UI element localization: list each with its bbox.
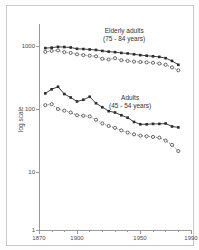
annotation-elderly-line2: (75 - 84 years)	[103, 35, 145, 43]
data-point	[88, 54, 91, 57]
data-point	[88, 95, 91, 98]
annotation-elderly-adults: Elderly adults (75 - 84 years)	[103, 27, 145, 43]
data-point	[158, 136, 161, 139]
figure-frame: log scale 1000 100 10 1	[6, 5, 194, 246]
data-point	[82, 54, 85, 57]
annotation-elderly-line1: Elderly adults	[103, 27, 145, 35]
data-point	[69, 46, 72, 49]
annotation-adults-line1: Adults	[109, 94, 151, 102]
data-point	[158, 123, 161, 126]
data-point	[139, 54, 142, 57]
data-point	[63, 109, 66, 112]
data-point	[95, 102, 98, 105]
data-point	[126, 59, 129, 62]
data-point	[101, 122, 104, 125]
data-point	[44, 50, 47, 53]
data-point	[50, 46, 53, 49]
data-point	[63, 93, 66, 96]
y-tick-label-10: 10	[28, 169, 35, 175]
data-point	[57, 46, 60, 49]
data-point	[139, 60, 142, 63]
data-point	[145, 61, 148, 64]
data-point	[120, 59, 123, 62]
data-point	[94, 55, 97, 58]
data-point	[101, 57, 104, 60]
data-point	[133, 53, 136, 56]
x-tick-label-1870: 1870	[32, 235, 45, 241]
data-point	[139, 123, 142, 126]
series-canvas	[39, 24, 191, 231]
x-tick-label-1950: 1950	[133, 235, 146, 241]
data-point	[120, 114, 123, 117]
data-point	[107, 110, 110, 113]
data-point	[151, 61, 154, 64]
data-point	[133, 121, 136, 124]
y-tick-label-1000: 1000	[22, 43, 35, 49]
data-point	[82, 48, 85, 51]
data-point	[63, 51, 66, 54]
data-point	[152, 55, 155, 58]
data-point	[171, 125, 174, 128]
annotation-adults: Adults (45 - 54 years)	[109, 94, 151, 110]
data-point	[82, 98, 85, 101]
data-point	[63, 46, 66, 49]
data-point	[107, 50, 110, 53]
data-point	[44, 104, 47, 107]
data-point	[76, 100, 79, 103]
data-point	[145, 54, 148, 57]
data-point	[75, 53, 78, 56]
data-point	[120, 52, 123, 55]
data-point	[101, 106, 104, 109]
data-point	[56, 49, 59, 52]
data-point	[164, 63, 167, 66]
data-point	[177, 126, 180, 129]
data-point	[75, 114, 78, 117]
data-point	[114, 51, 117, 54]
data-point	[132, 133, 135, 136]
data-point	[177, 63, 180, 66]
data-point	[170, 66, 173, 69]
data-point	[120, 129, 123, 132]
data-point	[158, 56, 161, 59]
data-point	[177, 69, 180, 72]
data-point	[170, 143, 173, 146]
data-point	[88, 115, 91, 118]
data-point	[50, 103, 53, 106]
data-point	[126, 52, 129, 55]
x-tick-label-1900: 1900	[70, 235, 83, 241]
data-point	[69, 111, 72, 114]
chart-page: log scale 1000 100 10 1	[0, 0, 199, 250]
data-point	[82, 114, 85, 117]
data-point	[145, 123, 148, 126]
data-point	[69, 96, 72, 99]
data-point	[177, 150, 180, 153]
data-point	[101, 50, 104, 53]
data-point	[158, 62, 161, 65]
data-point	[113, 126, 116, 129]
data-point	[50, 88, 53, 91]
y-axis-title: log scale	[17, 106, 24, 132]
data-point	[107, 58, 110, 61]
data-point	[139, 134, 142, 137]
data-point	[69, 51, 72, 54]
data-point	[152, 123, 155, 126]
plot-area: 1000 100 10 1 1870 1900 1950 1990	[39, 24, 191, 231]
data-point	[57, 85, 60, 88]
data-point	[76, 47, 79, 50]
data-point	[164, 139, 167, 142]
data-point	[94, 118, 97, 121]
data-point	[171, 60, 174, 63]
y-tick-label-100: 100	[25, 106, 35, 112]
data-point	[145, 135, 148, 138]
data-point	[126, 131, 129, 134]
data-point	[56, 107, 59, 110]
data-point	[164, 122, 167, 125]
data-point	[126, 116, 129, 119]
data-point	[88, 48, 91, 51]
data-point	[44, 92, 47, 95]
data-point	[164, 57, 167, 60]
y-tick-label-1: 1	[32, 227, 35, 233]
data-point	[50, 49, 53, 52]
data-point	[113, 57, 116, 60]
data-point	[107, 124, 110, 127]
